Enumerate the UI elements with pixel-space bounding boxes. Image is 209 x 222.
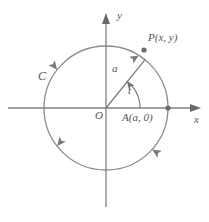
circle-parametrization-figure: y x C O a t A(a, 0) P(x, y) [0, 0, 209, 222]
arrow-lower-left-icon [54, 137, 66, 149]
y-axis-arrowhead [102, 13, 110, 24]
figure-canvas [0, 0, 209, 222]
arrow-upper-left-icon [48, 60, 60, 72]
radius-label: a [112, 63, 118, 74]
x-axis [8, 104, 201, 112]
point-p-dot [141, 47, 146, 52]
y-axis-label: y [117, 10, 122, 21]
x-axis-arrowhead [190, 104, 201, 112]
origin-label: O [95, 110, 103, 121]
y-axis [102, 13, 110, 207]
point-p-label: P(x, y) [148, 32, 177, 43]
point-a-dot [165, 105, 170, 110]
arrow-lower-right-icon [150, 146, 162, 158]
curve-label-c: C [38, 70, 46, 82]
x-axis-label: x [194, 114, 199, 125]
point-a-label: A(a, 0) [122, 112, 153, 123]
angle-label: t [128, 85, 131, 96]
